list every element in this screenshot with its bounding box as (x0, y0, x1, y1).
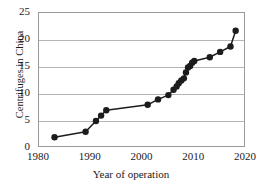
data-point (103, 107, 109, 113)
data-point (227, 43, 233, 49)
data-point (155, 96, 161, 102)
y-tick-label: 15 (0, 60, 30, 71)
plot-area (38, 12, 245, 147)
chart-figure: Centrifuges in China 0510152025 19801990… (0, 0, 262, 193)
data-point (207, 54, 213, 60)
data-point (144, 102, 150, 108)
y-tick-label: 25 (0, 6, 30, 17)
series-line (55, 31, 236, 137)
x-tick-label: 2000 (120, 150, 164, 162)
data-point (98, 112, 104, 118)
x-tick-label: 1990 (68, 150, 112, 162)
series-markers (51, 28, 239, 141)
y-tick-label: 20 (0, 33, 30, 44)
x-axis-tick-labels: 19801990200020102020 (0, 150, 262, 166)
x-tick-label: 2020 (223, 150, 262, 162)
data-point (217, 49, 223, 55)
x-axis-title: Year of operation (0, 168, 262, 180)
data-point (82, 129, 88, 135)
x-tick-label: 2010 (171, 150, 215, 162)
x-tick-label: 1980 (16, 150, 60, 162)
data-point (181, 75, 187, 81)
y-tick-label: 10 (0, 87, 30, 98)
data-point (93, 118, 99, 124)
data-point (232, 28, 238, 34)
data-point (165, 92, 171, 98)
data-point (191, 58, 197, 64)
y-tick-label: 5 (0, 114, 30, 125)
data-point (51, 134, 57, 140)
data-series (39, 13, 246, 148)
